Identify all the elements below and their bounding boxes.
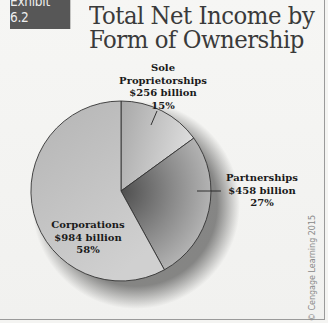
label-partnerships-value: $458 billion [226, 185, 298, 198]
label-partnerships: Partnerships $458 billion 27% [226, 172, 298, 210]
label-corporations: Corporations $984 billion 58% [51, 219, 124, 257]
label-corporations-value: $984 billion [51, 232, 124, 245]
label-sole-name-2: Proprietorships [119, 75, 207, 88]
pie-chart [0, 0, 328, 323]
label-sole-proprietorships: Sole Proprietorships $256 billion 15% [119, 62, 207, 112]
label-corporations-percent: 58% [51, 244, 124, 257]
label-partnerships-name: Partnerships [226, 172, 298, 185]
label-corporations-name: Corporations [51, 219, 124, 232]
label-sole-value: $256 billion [119, 87, 207, 100]
label-sole-percent: 15% [119, 100, 207, 113]
copyright-notice: © Cengage Learning 2015 [308, 215, 317, 321]
label-sole-name-1: Sole [119, 62, 207, 75]
label-partnerships-percent: 27% [226, 197, 298, 210]
